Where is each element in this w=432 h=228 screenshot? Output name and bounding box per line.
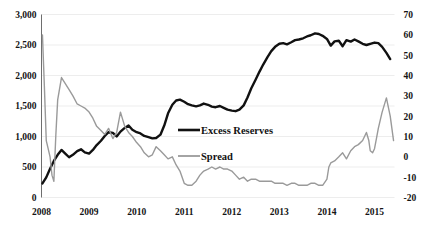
right-axis-tick-label: 70: [404, 10, 414, 20]
right-axis-tick-label: -20: [404, 193, 417, 203]
x-axis-tick-label: 2014: [317, 207, 336, 217]
left-axis-tick-label: 0: [32, 193, 37, 203]
legend-label: Excess Reserves: [201, 125, 273, 136]
right-axis-tick-label: 0: [404, 152, 409, 162]
dual-axis-line-chart: 05001,0001,5002,0002,5003,000 -20-100102…: [0, 0, 432, 228]
left-axis-tick-label: 1,000: [15, 132, 37, 142]
x-axis-tick-label: 2012: [222, 207, 241, 217]
x-axis-tick-label: 2011: [175, 207, 194, 217]
x-axis-tick-label: 2015: [365, 207, 384, 217]
right-axis-tick-label: -10: [404, 173, 417, 183]
left-axis-tick-labels: 05001,0001,5002,0002,5003,000: [15, 10, 37, 203]
chart-legend: Excess ReservesSpread: [178, 125, 273, 162]
bottom-axis-tick-labels: 20082009201020112012201320142015: [32, 207, 384, 217]
chart-canvas: 05001,0001,5002,0002,5003,000 -20-100102…: [0, 0, 432, 228]
x-axis-tick-label: 2010: [127, 207, 146, 217]
series-group: [42, 33, 393, 185]
right-axis-tick-label: 20: [404, 112, 414, 122]
x-axis-tick-label: 2013: [270, 207, 289, 217]
x-axis-tick-label: 2008: [32, 207, 51, 217]
series-line-spread: [42, 35, 393, 185]
right-axis-tick-label: 50: [404, 51, 414, 61]
left-axis-tick-label: 1,500: [15, 101, 37, 111]
left-axis-tick-label: 3,000: [15, 10, 37, 20]
left-axis-tick-label: 500: [22, 162, 37, 172]
x-axis-tick-label: 2009: [80, 207, 99, 217]
left-axis-tick-label: 2,000: [15, 71, 37, 81]
right-axis-tick-labels: -20-10010203040506070: [404, 10, 417, 203]
right-axis-tick-label: 10: [404, 132, 414, 142]
legend-label: Spread: [201, 151, 233, 162]
right-axis-tick-label: 30: [404, 91, 414, 101]
right-axis-tick-label: 60: [404, 30, 414, 40]
right-axis-tick-label: 40: [404, 71, 414, 81]
left-axis-tick-label: 2,500: [15, 40, 37, 50]
